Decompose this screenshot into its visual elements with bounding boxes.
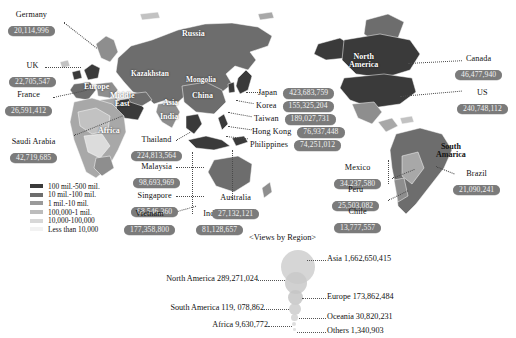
callout-label: UK bbox=[9, 62, 56, 71]
callout-canada[interactable]: Canada 46,477,940 bbox=[455, 55, 502, 80]
callout-label: Mexico bbox=[334, 164, 381, 173]
map-legend: 100 mil.-500 mil. 10 mil.-100 mil. 1 mil… bbox=[30, 182, 100, 234]
callout-value: 74,251,012 bbox=[294, 140, 341, 150]
callout-label: Chile bbox=[334, 208, 381, 217]
bubble-label-asia: Asia 1,662,650,415 bbox=[327, 254, 391, 263]
callout-label: Peru bbox=[332, 186, 379, 195]
callout-label: Australia bbox=[212, 194, 259, 203]
legend-swatch-icon bbox=[30, 193, 43, 197]
map-label-north-america: NorthAmerica bbox=[349, 53, 378, 69]
legend-swatch-icon bbox=[30, 227, 43, 231]
callout-value: 13,777,557 bbox=[334, 223, 381, 233]
callout-label: Thailand bbox=[131, 136, 182, 145]
legend-item: 10 mil.-100 mil. bbox=[30, 191, 100, 200]
callout-germany[interactable]: Germany 20,114,996 bbox=[8, 11, 55, 36]
bubble-africa bbox=[292, 322, 296, 326]
views-by-region-chart: Asia 1,662,650,415 Europe 173,862,484 Oc… bbox=[0, 248, 516, 338]
map-label-africa: Africa bbox=[98, 126, 120, 135]
map-label-middle-east: MiddleEast bbox=[110, 92, 134, 108]
legend-swatch-icon bbox=[30, 219, 43, 223]
bubble-leader-oceania bbox=[299, 318, 326, 319]
bubble-label-south-america: South America 119, 078,862 bbox=[54, 303, 264, 312]
bubble-label-others: Others 1,340,903 bbox=[327, 326, 384, 335]
callout-label: Brazil bbox=[453, 170, 500, 179]
bubble-label-africa: Africa 9,630,772 bbox=[90, 320, 268, 329]
map-label-mongolia: Mongolia bbox=[186, 75, 216, 84]
leader-singapore bbox=[176, 196, 204, 197]
callout-thailand[interactable]: Thailand 224,813,564 bbox=[131, 136, 182, 161]
legend-item: 100,000-1 mil. bbox=[30, 208, 100, 217]
map-label-china: China bbox=[192, 91, 213, 100]
callout-label: Singapore bbox=[131, 192, 178, 201]
legend-item: Less than 10,000 bbox=[30, 225, 100, 234]
bubble-leader-asia bbox=[307, 260, 326, 261]
callout-brazil[interactable]: Brazil 21,090,241 bbox=[453, 170, 500, 195]
callout-value: 42,719,685 bbox=[10, 153, 57, 163]
map-label-south-america: SouthAmarica bbox=[436, 143, 466, 159]
bubble-leader-europe bbox=[302, 298, 326, 299]
callout-value: 27,132,121 bbox=[212, 209, 259, 219]
callout-vietnam[interactable]: Vietnam 177,358,800 bbox=[124, 210, 175, 235]
callout-chile[interactable]: Chile 13,777,557 bbox=[334, 208, 381, 233]
bubble-others bbox=[293, 328, 296, 331]
leader-sea-vertical bbox=[192, 152, 193, 214]
legend-swatch-icon bbox=[30, 184, 43, 188]
bubble-label-north-america: North America 289,271,024 bbox=[60, 274, 258, 283]
callout-value: 22,705,547 bbox=[9, 77, 56, 87]
callout-value: 21,090,241 bbox=[453, 185, 500, 195]
leader-malaysia bbox=[176, 167, 204, 168]
legend-swatch-icon bbox=[30, 210, 43, 214]
callout-value: 26,591,412 bbox=[5, 106, 52, 116]
callout-value: 177,358,800 bbox=[124, 225, 175, 235]
leader-mexico-vertical bbox=[388, 160, 389, 184]
callout-philippines[interactable]: Philippines 74,251,012 bbox=[250, 136, 341, 153]
callout-label: US bbox=[457, 89, 508, 98]
legend-label: Less than 10,000 bbox=[48, 225, 98, 234]
bubble-leader-africa bbox=[268, 326, 292, 327]
legend-item: 10,000-100,000 bbox=[30, 216, 100, 225]
bubble-leader-others bbox=[297, 332, 326, 333]
callout-label: Saudi Arabia bbox=[10, 138, 57, 147]
world-map-figure: .c0{fill:#3a3a3a}.c1{fill:#6d6d6d}.c2{fi… bbox=[0, 0, 516, 338]
legend-swatch-icon bbox=[30, 201, 43, 205]
legend-item: 100 mil.-500 mil. bbox=[30, 182, 100, 191]
callout-label: Vietnam bbox=[124, 210, 175, 219]
callout-france[interactable]: France 26,591,412 bbox=[5, 91, 52, 116]
callout-value: 98,693,969 bbox=[133, 178, 180, 188]
bubble-label-europe: Europe 173,862,484 bbox=[327, 292, 394, 301]
map-label-asia: Asia bbox=[163, 98, 178, 107]
bubble-leader-north-america bbox=[258, 280, 285, 281]
views-by-region-title: <Views by Region> bbox=[249, 233, 316, 242]
callout-label: Philippines bbox=[250, 141, 288, 150]
bubble-label-oceania: Oceania 30,820,231 bbox=[327, 312, 393, 321]
callout-uk[interactable]: UK 22,705,547 bbox=[9, 62, 56, 87]
map-label-india: India bbox=[160, 112, 178, 121]
bubble-oceania bbox=[291, 314, 298, 321]
map-label-europe: Europe bbox=[84, 82, 109, 91]
callout-australia[interactable]: Australia 27,132,121 bbox=[212, 194, 259, 219]
callout-value: 46,477,940 bbox=[455, 70, 502, 80]
callout-value: 20,114,996 bbox=[8, 26, 55, 36]
callout-us[interactable]: US 240,748,112 bbox=[457, 89, 508, 114]
legend-item: 1 mil.-10 mil. bbox=[30, 199, 100, 208]
map-label-kazakhstan: Kazakhstan bbox=[131, 69, 169, 78]
callout-label: Canada bbox=[455, 55, 502, 64]
map-label-russia: Russia bbox=[182, 29, 205, 38]
callout-value: 224,813,564 bbox=[131, 151, 182, 161]
callout-label: Malaysia bbox=[133, 163, 180, 172]
callout-value: 81,128,657 bbox=[196, 225, 243, 235]
callout-saudi-arabia[interactable]: Saudi Arabia 42,719,685 bbox=[10, 138, 57, 163]
callout-label: Germany bbox=[8, 11, 55, 20]
callout-malaysia[interactable]: Malaysia 98,693,969 bbox=[133, 163, 180, 188]
bubble-leader-south-america bbox=[264, 309, 289, 310]
callout-label: France bbox=[5, 91, 52, 100]
callout-value: 240,748,112 bbox=[457, 104, 508, 114]
